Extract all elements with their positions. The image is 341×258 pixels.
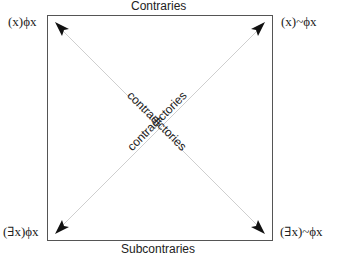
arrowhead-bottom-right-icon [251, 220, 265, 234]
corner-top-right-formula: (x)~ϕx [281, 14, 317, 30]
square-of-opposition: Contraries Subcontraries (x)ϕx (x)~ϕx (∃… [0, 0, 341, 258]
corner-top-left-formula: (x)ϕx [8, 14, 37, 30]
contraries-label: Contraries [131, 0, 186, 13]
arrowhead-top-left-icon [55, 22, 69, 36]
corner-bottom-left-formula: (∃x)ϕx [3, 224, 39, 240]
subcontraries-label: Subcontraries [121, 242, 195, 256]
corner-bottom-right-formula: (∃x)~ϕx [280, 224, 323, 240]
arrowhead-bottom-left-icon [55, 220, 69, 234]
arrowhead-top-right-icon [251, 22, 265, 36]
